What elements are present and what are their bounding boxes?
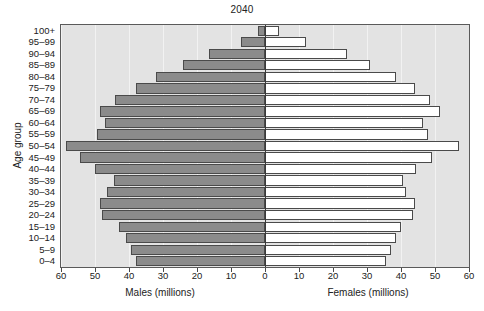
bar-male-20-24 xyxy=(102,210,265,220)
x-axis-title-males: Males (millions) xyxy=(60,287,260,298)
x-axis-title-females: Females (millions) xyxy=(268,287,468,298)
x-axis-tick-labels: 6050403020100102030405060 xyxy=(0,270,484,286)
bar-female-60-64 xyxy=(265,118,423,128)
bar-female-55-59 xyxy=(265,129,428,139)
bar-male-85-89 xyxy=(183,60,265,70)
x-tick-60: 60 xyxy=(454,270,484,281)
bar-male-75-79 xyxy=(136,83,265,93)
x-tick-0: 0 xyxy=(250,270,280,281)
bar-male-10-14 xyxy=(126,233,265,243)
bar-female-15-19 xyxy=(265,222,401,232)
bar-female-95-99 xyxy=(265,37,306,47)
bar-female-5-9 xyxy=(265,245,391,255)
bar-male-90-94 xyxy=(209,49,265,59)
x-tick-50: 50 xyxy=(80,270,110,281)
x-tick-30: 30 xyxy=(352,270,382,281)
y-tick-40-44: 40–44 xyxy=(29,164,55,174)
gridline xyxy=(469,25,470,267)
y-tick-70-74: 70–74 xyxy=(29,95,55,105)
bar-female-80-84 xyxy=(265,72,396,82)
bar-female-75-79 xyxy=(265,83,415,93)
x-tick-40: 40 xyxy=(114,270,144,281)
bar-female-0-4 xyxy=(265,256,386,266)
bar-female-20-24 xyxy=(265,210,413,220)
y-tick-10-14: 10–14 xyxy=(29,233,55,243)
zero-axis-line xyxy=(265,25,266,267)
y-tick-35-39: 35–39 xyxy=(29,176,55,186)
y-tick-90-94: 90–94 xyxy=(29,49,55,59)
y-tick-60-64: 60–64 xyxy=(29,118,55,128)
x-tick-10: 10 xyxy=(216,270,246,281)
bar-female-90-94 xyxy=(265,49,347,59)
bar-female-30-34 xyxy=(265,187,406,197)
y-tick-30-34: 30–34 xyxy=(29,187,55,197)
bar-male-70-74 xyxy=(115,95,265,105)
x-tick-10: 10 xyxy=(284,270,314,281)
bar-female-40-44 xyxy=(265,164,416,174)
y-tick-80-84: 80–84 xyxy=(29,72,55,82)
bar-female-35-39 xyxy=(265,175,403,185)
bar-male-15-19 xyxy=(119,222,265,232)
bar-female-50-54 xyxy=(265,141,459,151)
plot-area xyxy=(60,24,470,268)
bar-female-100+ xyxy=(265,26,279,36)
x-tick-20: 20 xyxy=(182,270,212,281)
y-tick-25-29: 25–29 xyxy=(29,199,55,209)
bar-male-55-59 xyxy=(97,129,265,139)
bar-male-50-54 xyxy=(66,141,265,151)
bar-male-45-49 xyxy=(80,152,265,162)
bar-male-60-64 xyxy=(105,118,265,128)
y-axis-tick-labels: 100+95–9990–9485–8980–8475–7970–7465–696… xyxy=(0,24,58,268)
bar-male-0-4 xyxy=(136,256,265,266)
x-tick-20: 20 xyxy=(318,270,348,281)
y-tick-45-49: 45–49 xyxy=(29,153,55,163)
population-pyramid-chart: 2040 Age group 100+95–9990–9485–8980–847… xyxy=(0,0,484,311)
bar-female-25-29 xyxy=(265,198,415,208)
y-tick-95-99: 95–99 xyxy=(29,37,55,47)
y-tick-75-79: 75–79 xyxy=(29,83,55,93)
bar-male-100+ xyxy=(258,26,265,36)
bar-male-5-9 xyxy=(131,245,265,255)
y-tick-65-69: 65–69 xyxy=(29,106,55,116)
y-tick-50-54: 50–54 xyxy=(29,141,55,151)
y-tick-0-4: 0–4 xyxy=(39,256,55,266)
y-tick-15-19: 15–19 xyxy=(29,222,55,232)
y-tick-55-59: 55–59 xyxy=(29,129,55,139)
bar-male-80-84 xyxy=(156,72,265,82)
x-tick-60: 60 xyxy=(46,270,76,281)
bar-male-30-34 xyxy=(107,187,265,197)
y-tick-100+: 100+ xyxy=(34,26,55,36)
x-tick-40: 40 xyxy=(386,270,416,281)
chart-title: 2040 xyxy=(0,4,484,15)
x-tick-30: 30 xyxy=(148,270,178,281)
bar-female-65-69 xyxy=(265,106,440,116)
bar-female-45-49 xyxy=(265,152,432,162)
y-tick-85-89: 85–89 xyxy=(29,60,55,70)
bar-male-65-69 xyxy=(100,106,265,116)
y-tick-20-24: 20–24 xyxy=(29,210,55,220)
y-tick-5-9: 5–9 xyxy=(39,245,55,255)
bar-female-85-89 xyxy=(265,60,370,70)
x-tick-50: 50 xyxy=(420,270,450,281)
bar-male-95-99 xyxy=(241,37,265,47)
bar-male-25-29 xyxy=(100,198,265,208)
bar-female-10-14 xyxy=(265,233,396,243)
bar-male-35-39 xyxy=(114,175,265,185)
bar-female-70-74 xyxy=(265,95,430,105)
bar-male-40-44 xyxy=(95,164,265,174)
